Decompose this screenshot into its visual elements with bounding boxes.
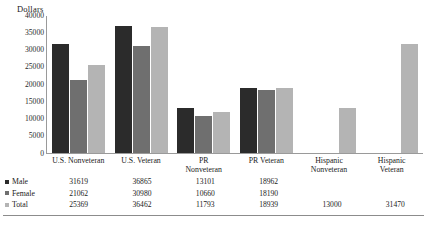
table-cell: 13101: [174, 177, 237, 186]
table-cell: 31470: [364, 200, 427, 209]
category-label: HispanicVeteran: [360, 156, 423, 174]
table-cell: 18190: [237, 189, 300, 198]
category-label-line1: U.S. Veteran: [121, 156, 160, 165]
category-label: U.S. Nonveteran: [47, 156, 110, 174]
legend-swatch-icon: [5, 180, 9, 184]
category-label: U.S. Veteran: [110, 156, 173, 174]
table-cell: [300, 177, 363, 186]
bar-group: [172, 16, 235, 153]
legend-swatch-icon: [5, 203, 9, 207]
legend-item-female[interactable]: Female: [0, 189, 47, 198]
table-cell: 30980: [110, 189, 173, 198]
category-label-line1: PR Veteran: [249, 156, 284, 165]
y-tick-label: 35000: [4, 29, 44, 37]
bar-group: [235, 16, 298, 153]
category-label: PRNonveteran: [172, 156, 235, 174]
bar-group: [298, 16, 361, 153]
category-label-line2: Veteran: [361, 165, 422, 174]
table-cell: 25369: [47, 200, 110, 209]
bar-groups: [47, 16, 423, 153]
table-cell: 18939: [237, 200, 300, 209]
bar-male: [177, 108, 194, 153]
category-label-line1: Hispanic: [315, 156, 343, 165]
y-tick-label: 15000: [4, 98, 44, 106]
bar-male: [240, 88, 257, 153]
y-tick-label: 30000: [4, 46, 44, 54]
bar-group: [360, 16, 423, 153]
category-label-line2: Nonveteran: [173, 165, 234, 174]
y-tick-label: 0: [4, 150, 44, 158]
table-cell: 31619: [47, 177, 110, 186]
category-label-line2: Nonveteran: [299, 165, 360, 174]
x-axis-category-labels: U.S. NonveteranU.S. VeteranPRNonveteranP…: [47, 156, 423, 174]
bar-total: [339, 108, 356, 153]
legend-item-male[interactable]: Male: [0, 177, 47, 186]
legend-label: Total: [12, 200, 28, 209]
y-tick-label: 10000: [4, 115, 44, 123]
table-value-row: 31619368651310118962: [47, 177, 427, 186]
category-label-line1: U.S. Nonveteran: [52, 156, 104, 165]
y-tick-label: 40000: [4, 12, 44, 20]
category-label-line1: Hispanic: [378, 156, 406, 165]
bar-group: [47, 16, 110, 153]
bar-male: [115, 26, 132, 153]
table-row: Female21062309801066018190: [0, 188, 427, 200]
table-cell: [300, 189, 363, 198]
bar-female: [195, 116, 212, 153]
table-cell: [364, 189, 427, 198]
bar-total: [276, 88, 293, 153]
category-label-line1: PR: [199, 156, 209, 165]
table-cell: 13000: [300, 200, 363, 209]
bar-total: [151, 27, 168, 153]
table-cell: 18962: [237, 177, 300, 186]
y-tick-label: 25000: [4, 63, 44, 71]
bar-male: [52, 44, 69, 153]
table-row: Total253693646211793189391300031470: [0, 199, 427, 211]
table-value-row: 253693646211793189391300031470: [47, 200, 427, 209]
y-tick-label: 20000: [4, 81, 44, 89]
table-cell: 11793: [174, 200, 237, 209]
table-cell: 36865: [110, 177, 173, 186]
table-cell: 10660: [174, 189, 237, 198]
table-cell: 36462: [110, 200, 173, 209]
legend-label: Male: [12, 177, 28, 186]
bar-female: [258, 90, 275, 153]
x-axis-line: [46, 153, 423, 154]
bar-total: [401, 44, 418, 153]
y-tick-label: 5000: [4, 132, 44, 140]
category-label: PR Veteran: [235, 156, 298, 174]
bar-group: [110, 16, 173, 153]
legend-label: Female: [12, 189, 35, 198]
table-value-row: 21062309801066018190: [47, 189, 427, 198]
table-cell: 21062: [47, 189, 110, 198]
bar-total: [88, 65, 105, 153]
legend-swatch-icon: [5, 191, 9, 195]
chart-data-table: Male31619368651310118962Female2106230980…: [0, 176, 427, 211]
table-row: Male31619368651310118962: [0, 176, 427, 188]
bar-female: [133, 46, 150, 153]
table-cell: [364, 177, 427, 186]
legend-item-total[interactable]: Total: [0, 200, 47, 209]
bar-female: [70, 80, 87, 153]
plot-area: [46, 16, 423, 154]
bar-chart: Dollars 05000100001500020000250003000035…: [0, 0, 427, 225]
category-label: HispanicNonveteran: [298, 156, 361, 174]
bar-total: [213, 112, 230, 153]
bottom-divider: [3, 215, 424, 216]
